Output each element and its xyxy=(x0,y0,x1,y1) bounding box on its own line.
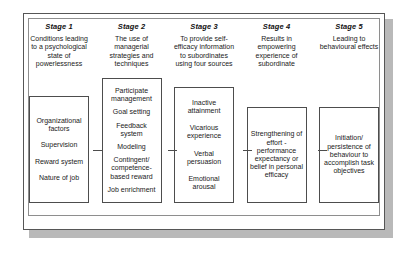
stage-4-item-1: Strengthening of effort - performance ex… xyxy=(250,130,304,179)
stage-3-item-1: Inactive attainment xyxy=(177,99,231,115)
stage-title-1: Stage 1 xyxy=(26,22,92,32)
stage-column-4: Stage 4 Results in empowering experience… xyxy=(244,20,310,212)
stage-column-2: Stage 2 The use of managerial strategies… xyxy=(99,20,165,212)
stage-header-1: Stage 1 Conditions leading to a psycholo… xyxy=(26,20,92,68)
connector-stage-3-to-4 xyxy=(243,150,252,151)
stage-2-item-3: Feedback system xyxy=(105,122,159,138)
stage-column-1: Stage 1 Conditions leading to a psycholo… xyxy=(26,20,92,212)
stage-1-item-1: Organizational factors xyxy=(32,117,86,133)
stage-title-3: Stage 3 xyxy=(171,22,237,32)
stage-description-1: Conditions leading to a psychological st… xyxy=(26,35,92,68)
stage-description-5: Leading to behavioural effects xyxy=(316,35,382,52)
stage-columns-container: Stage 1 Conditions leading to a psycholo… xyxy=(26,20,382,212)
stage-header-5: Stage 5 Leading to behavioural effects xyxy=(316,20,382,52)
connector-stage-2-to-3 xyxy=(168,150,177,151)
stage-header-3: Stage 3 To provide self-efficacy informa… xyxy=(171,20,237,68)
stage-3-item-2: Vicarious experience xyxy=(177,124,231,140)
stage-description-3: To provide self-efficacy information to … xyxy=(171,35,237,68)
stage-3-item-3: Verbal persuasion xyxy=(177,150,231,166)
stage-box-2: Participate management Goal setting Feed… xyxy=(102,78,162,203)
stage-3-item-4: Emotional arousal xyxy=(177,175,231,191)
stage-title-2: Stage 2 xyxy=(99,22,165,32)
stage-1-item-2: Supervision xyxy=(41,141,78,149)
stage-title-5: Stage 5 xyxy=(316,22,382,32)
stage-description-2: The use of managerial strategies and tec… xyxy=(99,35,165,68)
stage-column-5: Stage 5 Leading to behavioural effects I… xyxy=(316,20,382,212)
stage-header-4: Stage 4 Results in empowering experience… xyxy=(244,20,310,68)
stage-2-item-1: Participate management xyxy=(105,87,159,103)
stage-5-item-1: Initiation/ persistence of behaviour to … xyxy=(322,134,376,175)
connector-stage-1-to-2 xyxy=(93,150,102,151)
stage-box-1: Organizational factors Supervision Rewar… xyxy=(29,96,89,203)
stage-2-item-6: Job enrichment xyxy=(108,186,156,194)
connector-stage-4-to-5 xyxy=(318,150,327,151)
stage-2-item-2: Goal setting xyxy=(113,108,150,116)
stage-1-item-4: Nature of job xyxy=(39,174,79,182)
stage-box-4: Strengthening of effort - performance ex… xyxy=(247,107,307,203)
stage-column-3: Stage 3 To provide self-efficacy informa… xyxy=(171,20,237,212)
stage-title-4: Stage 4 xyxy=(244,22,310,32)
stage-description-4: Results in empowering experience of subo… xyxy=(244,35,310,68)
stage-1-item-3: Reward system xyxy=(35,158,83,166)
stage-2-item-4: Modeling xyxy=(117,143,145,151)
stage-header-2: Stage 2 The use of managerial strategies… xyxy=(99,20,165,68)
diagram-figure: Stage 1 Conditions leading to a psycholo… xyxy=(0,0,408,257)
stage-box-3: Inactive attainment Vicarious experience… xyxy=(174,87,234,203)
stage-box-5: Initiation/ persistence of behaviour to … xyxy=(319,107,379,203)
stage-2-item-5: Contingent/ competence- based reward xyxy=(105,156,159,181)
